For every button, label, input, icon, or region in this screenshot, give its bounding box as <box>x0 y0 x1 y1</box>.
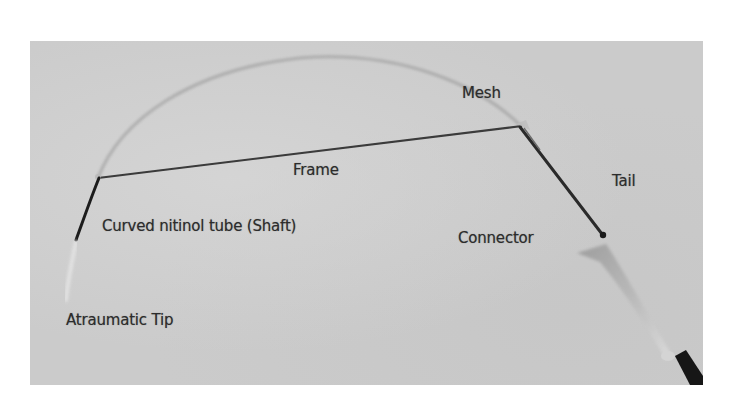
label-frame: Frame <box>293 161 339 179</box>
atraumatic-tip <box>66 242 76 300</box>
label-connector: Connector <box>458 229 534 247</box>
label-atraumatic-tip: Atraumatic Tip <box>66 311 173 329</box>
black-cable <box>675 350 703 385</box>
shaft-tube <box>76 178 99 240</box>
label-mesh: Mesh <box>462 84 501 102</box>
figure-canvas: Mesh Frame Tail Curved nitinol tube (Sha… <box>0 0 731 418</box>
label-tail: Tail <box>612 172 635 190</box>
mesh-arc <box>98 57 522 178</box>
label-shaft: Curved nitinol tube (Shaft) <box>102 217 296 235</box>
connector-body <box>577 244 670 360</box>
tail-wire-inner <box>524 128 540 150</box>
connector-collar <box>661 351 675 361</box>
device-illustration <box>0 0 731 418</box>
tail-wire <box>520 127 602 234</box>
tail-end <box>600 232 606 238</box>
